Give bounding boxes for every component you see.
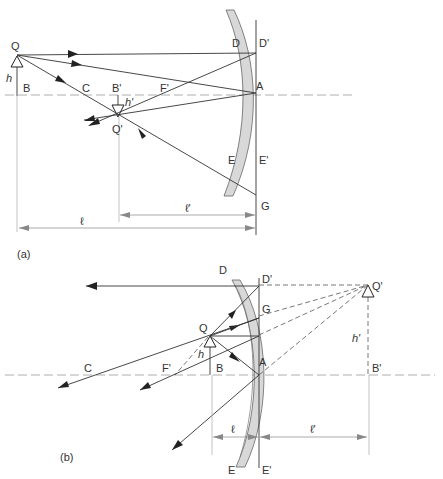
virtual-ray-2	[259, 285, 368, 316]
label-l-prime: ℓ'	[185, 202, 191, 214]
label-B-prime: B'	[112, 82, 121, 94]
caption-a: (a)	[17, 248, 30, 260]
label-Q: Q	[11, 40, 20, 52]
label-D: D	[219, 264, 227, 276]
ray-arrow-icon	[228, 310, 236, 319]
label-B: B	[216, 362, 223, 374]
label-l: ℓ	[231, 423, 235, 435]
ray-arrow-icon	[84, 115, 95, 121]
caption-b: (b)	[60, 451, 73, 463]
label-D-prime: D'	[262, 273, 272, 285]
label-h-prime: h'	[352, 332, 361, 344]
ray-arrow-icon	[86, 282, 97, 290]
label-D-prime: D'	[259, 37, 269, 49]
label-h: h	[6, 72, 12, 84]
label-B-prime: B'	[372, 362, 381, 374]
ray-arrow-icon	[229, 352, 240, 362]
label-Q-prime: Q'	[112, 123, 123, 135]
label-F-prime: F'	[162, 362, 171, 374]
ray-reflected-vertex-a	[84, 93, 256, 120]
label-E: E	[228, 464, 235, 476]
label-C: C	[82, 82, 90, 94]
ray-to-vertex-a	[17, 55, 256, 93]
ray-arrow-icon	[140, 382, 151, 390]
label-Q-prime: Q'	[372, 280, 383, 292]
panel-b: D D' Q' G Q h h' C F' B A B' ℓ ℓ' (b) E …	[5, 264, 435, 476]
label-D: D	[232, 37, 240, 49]
ray-arrow-icon	[71, 60, 82, 67]
label-B: B	[23, 82, 30, 94]
ray-through-center-a	[17, 55, 256, 195]
label-Q: Q	[199, 322, 208, 334]
label-A: A	[256, 80, 264, 92]
optics-diagram: Q h B C B' h' Q' F' D D' A E E' G ℓ' ℓ (…	[0, 0, 443, 479]
ray-arrow-icon	[55, 75, 66, 83]
ray-arrow-icon	[68, 50, 78, 58]
label-A: A	[259, 356, 267, 368]
label-h-prime: h'	[125, 96, 134, 108]
virtual-ray-3	[259, 285, 368, 335]
label-E-prime: E'	[259, 154, 268, 166]
ray-reflected-center	[58, 318, 259, 388]
ray-parallel-a	[17, 53, 256, 55]
ray-reflected-focus	[140, 336, 259, 390]
label-l: ℓ	[80, 215, 84, 227]
virtual-ray-4	[259, 285, 368, 375]
label-E: E	[228, 154, 235, 166]
label-C: C	[84, 362, 92, 374]
object-arrowhead-b	[204, 336, 216, 347]
label-h: h	[198, 348, 204, 360]
label-E-prime: E'	[262, 464, 271, 476]
ray-arrow-icon	[58, 381, 69, 388]
panel-a: Q h B C B' h' Q' F' D D' A E E' G ℓ' ℓ (…	[5, 10, 355, 260]
diagram-canvas: Q h B C B' h' Q' F' D D' A E E' G ℓ' ℓ (…	[0, 0, 443, 479]
label-G: G	[261, 200, 270, 212]
label-l-prime: ℓ'	[310, 423, 316, 435]
label-G: G	[262, 303, 271, 315]
label-F-prime: F'	[160, 82, 169, 94]
